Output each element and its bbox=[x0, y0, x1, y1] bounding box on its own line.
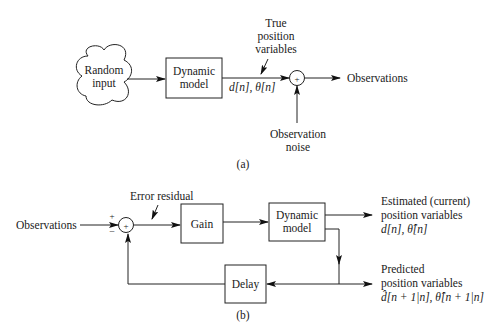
error-label-pointer bbox=[152, 205, 158, 219]
caption-b: (b) bbox=[236, 309, 250, 322]
true-label-1: True bbox=[265, 17, 286, 29]
predicted-label-3: d̂[n + 1|n], θ̂[n + 1|n] bbox=[381, 290, 484, 304]
predicted-label-2: position variables bbox=[381, 277, 463, 290]
true-label-pointer bbox=[261, 59, 268, 74]
minus-sign: − bbox=[109, 226, 115, 237]
diagram-canvas: Random input Dynamic model d[n], θ[n] Tr… bbox=[0, 0, 486, 333]
observations-input-label: Observations bbox=[16, 219, 77, 231]
error-residual-label: Error residual bbox=[130, 190, 194, 202]
true-label-2: position bbox=[257, 30, 294, 43]
diagram-b: Observations + − + Error residual Gain D… bbox=[16, 190, 484, 322]
noise-label-1: Observation bbox=[270, 128, 326, 140]
random-input-label-2: input bbox=[92, 77, 116, 90]
dynamic-model-label-2: model bbox=[180, 78, 209, 90]
noise-label-2: noise bbox=[286, 141, 310, 153]
summer-a-sign: + bbox=[294, 74, 299, 84]
random-input-label-1: Random bbox=[85, 64, 124, 76]
arrow-model-to-prediction bbox=[325, 229, 339, 264]
observations-output-label: Observations bbox=[347, 72, 408, 84]
diagram-a: Random input Dynamic model d[n], θ[n] Tr… bbox=[76, 17, 408, 171]
true-label-3: variables bbox=[255, 43, 297, 55]
plus-sign: + bbox=[109, 211, 114, 221]
predicted-label-1: Predicted bbox=[381, 263, 425, 275]
summer-b-sign: + bbox=[123, 221, 128, 231]
caption-a: (a) bbox=[237, 158, 250, 171]
delay-label: Delay bbox=[232, 278, 260, 291]
gain-label: Gain bbox=[191, 218, 214, 230]
estimated-label-3: d[n], θ̂[n] bbox=[381, 223, 428, 236]
model-output-label: d[n], θ[n] bbox=[229, 81, 276, 94]
estimated-label-1: Estimated (current) bbox=[381, 195, 470, 208]
estimated-label-2: position variables bbox=[381, 209, 463, 222]
dynamic-model-label-1: Dynamic bbox=[173, 65, 215, 78]
dynamic-model-b-label-1: Dynamic bbox=[276, 209, 318, 222]
dynamic-model-b-label-2: model bbox=[283, 222, 312, 234]
